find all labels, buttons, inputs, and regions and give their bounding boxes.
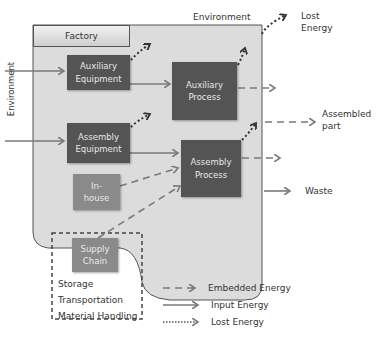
- in-house-line2: house: [84, 193, 110, 203]
- lost-energy-line1: Lost: [301, 11, 320, 21]
- auxiliary-equipment-box: AuxiliaryEquipment: [67, 55, 130, 90]
- assembly-equipment-box: AssemblyEquipment: [67, 123, 130, 163]
- auxiliary-equipment-line2: Equipment: [75, 74, 121, 84]
- environment-top-label: Environment: [193, 11, 250, 23]
- supply-item-storage: Storage: [58, 279, 93, 289]
- assembled-part-output: Assembledpart: [322, 108, 371, 132]
- in-house-line1: In-: [91, 181, 102, 191]
- factory-label: Factory: [33, 25, 130, 47]
- assembly-equipment-line1: Assembly: [78, 132, 119, 142]
- waste-output: Waste: [305, 185, 333, 197]
- lost-energy-line2: Energy: [301, 23, 333, 33]
- supply-chain-line2: Chain: [83, 256, 107, 266]
- lost-energy-output: LostEnergy: [301, 10, 333, 34]
- auxiliary-process-line2: Process: [188, 92, 220, 102]
- assembly-process-line2: Process: [195, 170, 227, 180]
- supply-chain-box: SupplyChain: [72, 238, 118, 272]
- supply-chain-line1: Supply: [81, 244, 110, 254]
- assembly-equipment-line2: Equipment: [75, 144, 121, 154]
- legend-embedded-energy: Embedded Energy: [208, 282, 291, 294]
- assembly-process-line1: Assembly: [191, 157, 232, 167]
- supply-item-material-handling: Material Handling: [58, 311, 138, 321]
- assembled-part-line1: Assembled: [322, 109, 371, 119]
- legend-lost-energy: Lost Energy: [211, 316, 264, 328]
- auxiliary-equipment-line1: Auxiliary: [80, 61, 117, 71]
- supply-chain-items: Storage Transportation Material Handling: [58, 277, 138, 324]
- in-house-box: In-house: [73, 174, 120, 210]
- assembled-part-line2: part: [322, 121, 340, 131]
- assembly-process-box: AssemblyProcess: [181, 140, 241, 197]
- legend-input-energy: Input Energy: [211, 299, 269, 311]
- auxiliary-process-line1: Auxiliary: [186, 80, 223, 90]
- environment-left-label: Environment: [6, 62, 16, 116]
- supply-item-transportation: Transportation: [58, 295, 123, 305]
- auxiliary-process-box: AuxiliaryProcess: [172, 62, 237, 120]
